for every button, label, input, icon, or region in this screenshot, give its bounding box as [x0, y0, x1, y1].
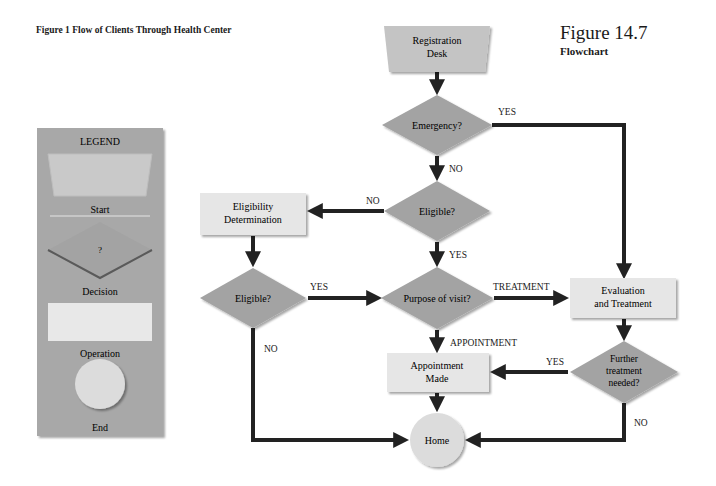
edge-label-treatment: TREATMENT — [493, 282, 550, 292]
edge-label-appointment: APPOINTMENT — [450, 338, 517, 348]
edge-label-further-yes: YES — [546, 357, 564, 367]
node-eligibility-determination: Eligibility Determination — [200, 193, 306, 235]
svg-text:Made: Made — [426, 373, 449, 384]
node-eligible-decision: Eligible? — [384, 181, 490, 241]
node-home-end: Home — [410, 413, 464, 467]
svg-text:Home: Home — [425, 435, 450, 446]
svg-text:Eligible?: Eligible? — [419, 206, 456, 217]
svg-text:Further: Further — [610, 354, 639, 364]
svg-text:needed?: needed? — [608, 378, 639, 388]
edge-label-emergency-no: NO — [449, 164, 463, 174]
svg-text:Emergency?: Emergency? — [412, 120, 462, 131]
edge-label-left-eligible-yes: YES — [310, 282, 328, 292]
legend-operation-label: Operation — [80, 348, 120, 359]
svg-text:Eligibility: Eligibility — [233, 201, 274, 212]
legend-decision-symbol: ? — [98, 245, 102, 255]
legend-heading: LEGEND — [80, 136, 120, 147]
edge-label-left-eligible-no: NO — [264, 344, 278, 354]
edge-label-eligible-yes: YES — [449, 250, 467, 260]
svg-text:Evaluation: Evaluation — [601, 285, 644, 296]
svg-text:Registration: Registration — [413, 35, 462, 46]
node-evaluation-treatment: Evaluation and Treatment — [570, 278, 676, 318]
legend-panel: LEGEND Start ? Decision Operation End — [37, 128, 163, 436]
svg-text:Desk: Desk — [427, 48, 448, 59]
edge-label-further-no: NO — [634, 418, 648, 428]
legend-decision-label: Decision — [82, 286, 118, 297]
svg-text:Eligible?: Eligible? — [235, 293, 272, 304]
svg-text:Purpose of visit?: Purpose of visit? — [403, 293, 471, 304]
legend-start-shape — [48, 154, 152, 196]
flowchart-canvas: LEGEND Start ? Decision Operation End YE… — [0, 0, 716, 486]
svg-text:and Treatment: and Treatment — [594, 298, 652, 309]
edge-label-eligible-no: NO — [366, 196, 380, 206]
node-eligible-left-decision: Eligible? — [200, 268, 306, 328]
legend-end-label: End — [92, 422, 108, 433]
node-purpose-decision: Purpose of visit? — [381, 267, 493, 329]
svg-text:Appointment: Appointment — [411, 360, 464, 371]
legend-end-shape — [75, 359, 125, 409]
legend-start-label: Start — [91, 204, 110, 215]
svg-text:treatment: treatment — [606, 366, 642, 376]
svg-text:Determination: Determination — [224, 214, 282, 225]
edge-label-emergency-yes: YES — [498, 107, 516, 117]
node-emergency-decision: Emergency? — [382, 95, 492, 155]
node-appointment-made: Appointment Made — [387, 353, 489, 392]
node-registration-desk: Registration Desk — [384, 26, 490, 72]
node-further-treatment-decision: Further treatment needed? — [570, 341, 678, 403]
legend-operation-shape — [48, 303, 152, 341]
